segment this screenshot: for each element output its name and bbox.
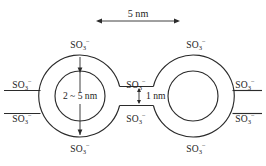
diameter-label: 2 ~ 5 nm — [63, 90, 98, 101]
ion-label-left-outer-upper: SO3− — [12, 78, 32, 91]
ion-label-center-upper: SO3− — [126, 78, 146, 91]
scale-bar-label: 5 nm — [128, 8, 149, 19]
ion-label-left-outer-lower: SO3− — [12, 112, 32, 125]
wall-gap-label: 1 nm — [146, 90, 166, 101]
scale-bar-arrowhead-right — [174, 18, 180, 23]
ion-label-right-outer-lower: SO3− — [235, 112, 255, 125]
right-ring-group — [153, 55, 234, 137]
diameter-arrowhead-bottom — [78, 130, 83, 136]
scale-bar-arrowhead-left — [96, 18, 102, 23]
left-tube-walls — [4, 91, 41, 114]
ion-label-right-ring-top: SO3− — [186, 38, 206, 51]
right-ring-inner-circle — [168, 71, 218, 121]
nanoring-schematic: 5 nm — [0, 0, 266, 166]
diameter-dimension: 2 ~ 5 nm — [63, 57, 98, 135]
ion-label-right-ring-bottom: SO3− — [186, 142, 206, 155]
ion-label-right-outer-upper: SO3− — [235, 78, 255, 91]
scale-bar: 5 nm — [96, 8, 180, 24]
wall-gap-arrowhead-bottom — [137, 100, 141, 104]
ion-label-left-ring-top: SO3− — [70, 38, 90, 51]
ion-label-center-lower: SO3− — [126, 112, 146, 125]
diameter-arrowhead-top — [78, 68, 83, 74]
ion-label-left-ring-bottom: SO3− — [70, 142, 90, 155]
right-tube-walls — [233, 91, 263, 114]
figure-root: 5 nm — [0, 0, 266, 166]
right-ring-outer-circle — [153, 55, 234, 137]
